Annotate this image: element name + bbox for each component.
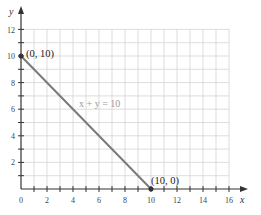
axes xyxy=(18,6,248,192)
y-axis-label: y xyxy=(8,6,14,17)
y-tick-6: 6 xyxy=(11,105,15,114)
y-tick-4: 4 xyxy=(11,132,15,141)
x-tick-4: 4 xyxy=(71,196,75,205)
y-tick-10: 10 xyxy=(7,52,15,61)
y-tick-12: 12 xyxy=(7,26,15,35)
x-axis-label: x xyxy=(239,194,245,205)
x-tick-10: 10 xyxy=(147,196,155,205)
y-axis-arrow-icon xyxy=(18,6,24,14)
x-tick-8: 8 xyxy=(123,196,127,205)
x-tick-12: 12 xyxy=(173,196,181,205)
y-tick-8: 8 xyxy=(11,79,15,88)
x-tick-2: 2 xyxy=(45,196,49,205)
point-10-0 xyxy=(149,187,154,192)
x-tick-6: 6 xyxy=(97,196,101,205)
equation-label: x + y = 10 xyxy=(79,98,120,109)
x-tick-16: 16 xyxy=(225,196,233,205)
x-tick-labels: 0 2 4 6 8 10 12 14 16 xyxy=(19,196,233,205)
point-0-10 xyxy=(19,54,24,59)
x-tick-14: 14 xyxy=(199,196,207,205)
y-tick-2: 2 xyxy=(11,158,15,167)
chart-canvas: 0 2 4 6 8 10 12 14 16 2 4 6 8 10 12 x y … xyxy=(0,0,261,215)
point-label-10-0: (10, 0) xyxy=(151,175,179,187)
x-tick-0: 0 xyxy=(19,196,23,205)
point-label-0-10: (0, 10) xyxy=(26,48,54,60)
y-tick-labels: 2 4 6 8 10 12 xyxy=(7,26,15,168)
x-axis-arrow-icon xyxy=(240,186,248,192)
